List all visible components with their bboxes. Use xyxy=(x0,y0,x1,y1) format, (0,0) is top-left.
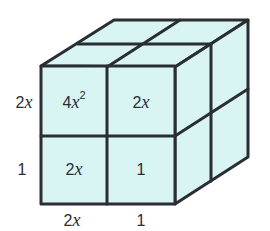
cell-label-bottom-right: 1 xyxy=(137,161,146,178)
side-label-left-top: 2x xyxy=(16,92,33,112)
cell-label-top-right: 2x xyxy=(133,92,150,112)
algebra-cube-diagram: 4x2 2x 2x 1 2x 1 2x 1 xyxy=(0,0,270,231)
side-label-bottom-left: 2x xyxy=(64,210,81,230)
side-label-bottom-right: 1 xyxy=(137,212,146,229)
cell-label-bottom-left: 2x xyxy=(66,159,83,179)
side-label-left-bottom: 1 xyxy=(18,161,27,178)
